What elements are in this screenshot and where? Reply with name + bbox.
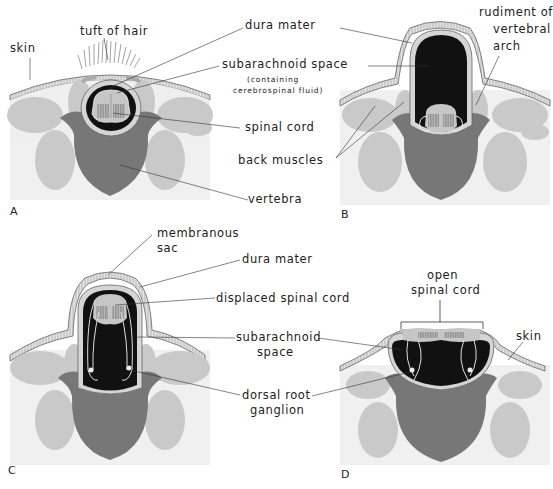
label-subarachnoid-note-1: (containing xyxy=(247,75,299,84)
label-membranous-1: membranous xyxy=(157,226,239,240)
panel-letter-d: D xyxy=(341,468,349,481)
label-dorsal-root-1: dorsal root xyxy=(242,388,311,402)
label-vertebra: vertebra xyxy=(248,192,302,206)
label-back-muscles: back muscles xyxy=(238,153,323,167)
open-cord xyxy=(403,328,480,342)
label-rudiment-3: arch xyxy=(493,39,521,53)
label-dura-mater-c: dura mater xyxy=(242,252,313,266)
label-dura-mater-a: dura mater xyxy=(245,18,316,32)
label-dorsal-root-2: ganglion xyxy=(250,403,304,417)
label-subarachnoid-1-c: subarachnoid xyxy=(236,330,321,344)
panel-letter-b: B xyxy=(341,208,349,221)
label-displaced-spinal-cord: displaced spinal cord xyxy=(216,291,350,305)
open-cord-bracket xyxy=(401,300,483,329)
panel-letter-c: C xyxy=(8,464,16,477)
label-subarachnoid-note-2: cerebrospinal fluid) xyxy=(233,86,323,95)
label-subarachnoid-2-c: space xyxy=(257,345,294,359)
label-rudiment-2: vertebral xyxy=(493,22,551,36)
label-spinal-cord-a: spinal cord xyxy=(245,120,314,134)
label-open-1: open xyxy=(427,268,458,282)
back-muscle xyxy=(35,130,75,190)
panel-c xyxy=(10,235,240,465)
back-muscle xyxy=(7,97,63,133)
label-rudiment-1: rudiment of xyxy=(479,5,553,19)
panel-d xyxy=(312,300,550,465)
label-skin-d: skin xyxy=(516,329,542,343)
label-subarachnoid-space-a: subarachnoid space xyxy=(222,57,348,71)
panel-letter-a: A xyxy=(10,205,18,218)
label-membranous-2: sac xyxy=(157,241,178,255)
tuft-of-hair-drawing xyxy=(78,40,140,69)
label-skin-a: skin xyxy=(10,41,36,55)
label-open-2: spinal cord xyxy=(411,283,480,297)
panel-a xyxy=(7,28,248,200)
label-tuft-of-hair: tuft of hair xyxy=(80,24,148,38)
